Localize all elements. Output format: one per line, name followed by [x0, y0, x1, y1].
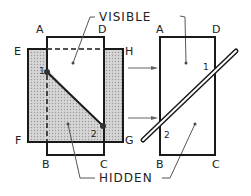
label-A-right: A	[156, 23, 164, 36]
label-point-1-left: 1	[39, 66, 45, 76]
label-A-left: A	[36, 23, 44, 36]
label-C-left: C	[100, 158, 108, 171]
label-point-2-right: 2	[164, 130, 170, 140]
prism-abcd-top	[47, 37, 104, 49]
label-point-1-right: 1	[203, 62, 209, 72]
label-point-2-left: 2	[91, 129, 97, 139]
label-B-left: B	[42, 158, 50, 171]
prism-abcd-bottom	[47, 142, 104, 155]
label-C-right: C	[212, 158, 220, 171]
label-G: G	[125, 134, 134, 147]
label-B-right: B	[156, 158, 164, 171]
label-visible: VISIBLE	[99, 10, 151, 24]
label-D-left: D	[98, 23, 106, 36]
label-E: E	[14, 45, 21, 58]
label-hidden: HIDDEN	[99, 171, 153, 185]
leader-visible-right	[180, 16, 186, 63]
label-H: H	[125, 45, 133, 58]
visibility-diagram: A D E H F G B C 1 2 VISIBLE HIDDEN A D B…	[0, 0, 251, 196]
label-D-right: D	[212, 23, 220, 36]
label-F: F	[15, 134, 21, 147]
